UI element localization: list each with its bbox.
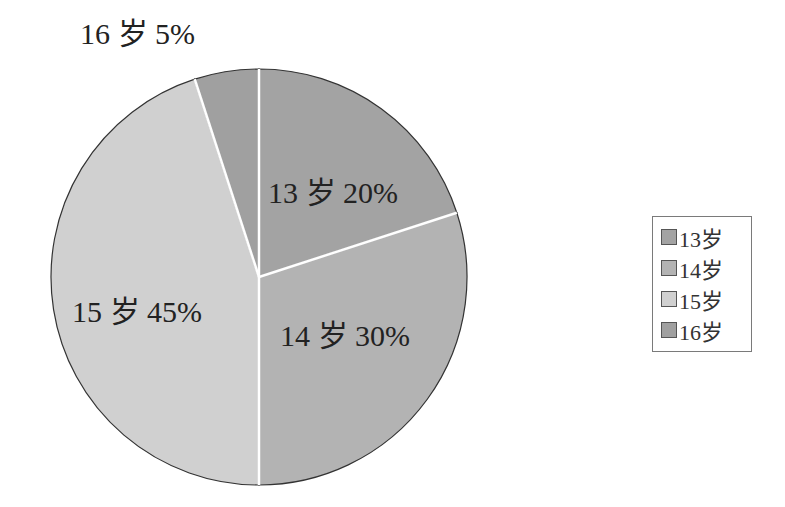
legend-swatch-16 — [661, 322, 677, 338]
legend-label: 14岁 — [679, 252, 723, 284]
legend-label: 13岁 — [679, 221, 723, 253]
legend-label: 16岁 — [679, 314, 723, 346]
data-label-15: 15 岁 45% — [72, 287, 202, 331]
legend-swatch-14 — [661, 260, 677, 276]
legend-label: 15岁 — [679, 283, 723, 315]
legend-swatch-15 — [661, 291, 677, 307]
legend-item-13: 13岁 — [661, 221, 751, 252]
legend-item-16: 16岁 — [661, 314, 751, 345]
legend-item-14: 14岁 — [661, 252, 751, 283]
legend-swatch-13 — [661, 229, 677, 245]
data-label-13: 13 岁 20% — [268, 168, 398, 212]
chart-legend: 13岁 14岁 15岁 16岁 — [652, 216, 752, 352]
data-label-16: 16 岁 5% — [80, 9, 195, 53]
data-label-14: 14 岁 30% — [280, 311, 410, 355]
legend-item-15: 15岁 — [661, 283, 751, 314]
